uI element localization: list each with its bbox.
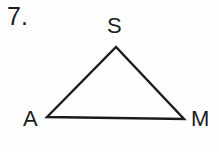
- vertex-label-a: A: [23, 108, 38, 130]
- geometry-figure: 7. S A M: [0, 0, 219, 152]
- vertex-label-m: M: [191, 108, 209, 130]
- triangle-outline: [47, 47, 184, 119]
- vertex-label-s: S: [107, 15, 122, 37]
